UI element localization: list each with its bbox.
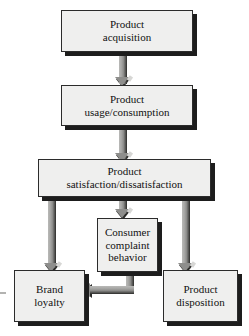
node-label: Brand loyalty [32, 283, 67, 309]
arrow-highlight-tick [190, 261, 196, 267]
node-product-disposition[interactable]: Product disposition [163, 270, 238, 322]
node-brand-loyalty[interactable]: Brand loyalty [14, 270, 85, 322]
node-label: Product usage/consumption [83, 93, 172, 119]
node-product-usage-consumption[interactable]: Product usage/consumption [61, 85, 193, 126]
node-label: Product satisfaction/dissatisfaction [64, 165, 184, 191]
arrow-highlight-tick [127, 151, 133, 157]
node-product-satisfaction-dissatisfaction[interactable]: Product satisfaction/dissatisfaction [38, 159, 211, 197]
arrow-shaft [182, 196, 190, 268]
node-label: Consumer complaint behavior [103, 226, 152, 265]
scan-edge-artifact [0, 292, 6, 294]
node-label: Product acquisition [101, 18, 153, 44]
arrow-highlight-tick [127, 207, 133, 213]
arrow-shaft [48, 196, 56, 268]
arrow-highlight-tick [56, 261, 62, 267]
node-label: Product disposition [174, 283, 226, 309]
flowchart-canvas: Product acquisition Product usage/consum… [0, 0, 249, 336]
node-consumer-complaint-behavior[interactable]: Consumer complaint behavior [97, 218, 158, 272]
arrow-highlight-tick [127, 75, 133, 81]
arrow-shaft-horizontal [90, 286, 134, 294]
node-product-acquisition[interactable]: Product acquisition [61, 10, 193, 52]
